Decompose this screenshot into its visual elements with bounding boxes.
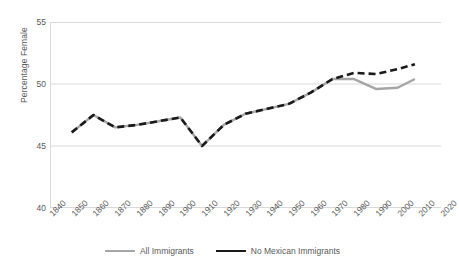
legend-swatch-icon bbox=[105, 250, 135, 252]
plot-svg bbox=[50, 22, 441, 208]
legend-label: All Immigrants bbox=[140, 246, 194, 256]
y-axis-tick-label: 45 bbox=[22, 142, 46, 151]
legend-swatch-icon bbox=[216, 250, 246, 252]
y-axis-tick-labels: 55504540 bbox=[20, 0, 46, 271]
plot-area bbox=[50, 22, 441, 208]
y-axis-tick-label: 55 bbox=[22, 18, 46, 27]
y-axis-tick-label: 40 bbox=[22, 204, 46, 213]
legend-item[interactable]: No Mexican Immigrants bbox=[216, 246, 340, 256]
chart-legend: All ImmigrantsNo Mexican Immigrants bbox=[0, 246, 445, 256]
legend-label: No Mexican Immigrants bbox=[251, 246, 340, 256]
series-line-2 bbox=[72, 64, 415, 146]
legend-item[interactable]: All Immigrants bbox=[105, 246, 194, 256]
x-axis-tick-label: 2020 bbox=[439, 199, 458, 218]
x-axis-tick-labels: 1840185018601870188018901900191019201930… bbox=[50, 208, 441, 248]
series-line-1 bbox=[72, 79, 415, 146]
y-axis-tick-label: 50 bbox=[22, 80, 46, 89]
